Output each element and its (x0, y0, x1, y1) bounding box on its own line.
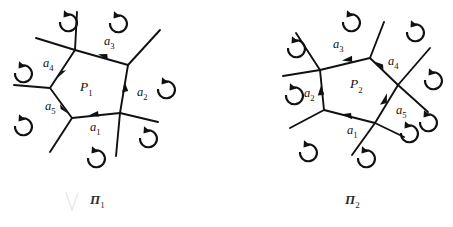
scan-artifact (66, 192, 78, 210)
arrowhead-a5 (380, 93, 387, 105)
caption-pi2: Π2 (344, 192, 360, 210)
rotation-arrow (300, 140, 317, 161)
spur-line (116, 113, 120, 156)
arrowhead-a3 (342, 56, 352, 62)
edge-a3 (75, 50, 128, 65)
arrowhead-a2 (122, 82, 128, 93)
edge-label-a1: a1 (347, 123, 358, 140)
rotation-arrow (60, 10, 77, 31)
panel-left: a1 a2 a3 a4 a5 P1 Π1 (14, 10, 175, 210)
rotation-arrow (140, 126, 157, 147)
spur-line (50, 118, 72, 152)
edge-label-a5: a5 (45, 99, 56, 116)
arrowhead-a2 (318, 85, 324, 96)
rotation-arrow (15, 114, 32, 135)
rotation-arrow (401, 121, 418, 142)
spur-line (120, 113, 158, 122)
rotation-arrow (15, 61, 32, 82)
spur-line (370, 22, 384, 58)
rotation-arrow (286, 83, 303, 104)
rotation-arrow (420, 110, 437, 131)
spur-line (36, 38, 75, 50)
edge-label-a5: a5 (396, 103, 407, 120)
rotation-arrows-left (15, 10, 175, 167)
rotation-arrow (358, 146, 375, 167)
rotation-arrow (88, 146, 105, 167)
figure-root: a1 a2 a3 a4 a5 P1 Π1 (0, 0, 453, 227)
edge-a5 (375, 85, 398, 123)
face-label-p1: P1 (79, 79, 93, 98)
rotation-arrow (343, 10, 360, 31)
edge-label-a3: a3 (104, 34, 115, 51)
face-label-p2: P2 (349, 76, 363, 95)
rotation-arrow (158, 77, 175, 98)
edge-a4 (50, 50, 75, 88)
spur-line (398, 48, 430, 85)
polygon-edges-left (50, 50, 128, 118)
spur-line (283, 70, 320, 76)
spur-line (14, 85, 50, 88)
rotation-arrow (425, 68, 442, 89)
polygon-diagram-svg: a1 a2 a3 a4 a5 P1 Π1 (0, 0, 453, 227)
panel-right: a1 a2 a3 a4 a5 P2 Π2 (283, 10, 442, 209)
edge-label-a4: a4 (388, 54, 399, 71)
edge-label-a3: a3 (333, 37, 344, 54)
rotation-arrow (110, 11, 127, 32)
spur-line (296, 33, 320, 70)
edge-label-a4: a4 (43, 56, 54, 73)
spur-line (128, 30, 160, 65)
edge-label-a2: a2 (304, 86, 315, 103)
spur-line (290, 110, 324, 128)
edge-label-a2: a2 (137, 85, 148, 102)
edge-label-a1: a1 (90, 120, 101, 137)
spur-line (398, 85, 428, 112)
caption-pi1: Π1 (89, 192, 105, 210)
rotation-arrow (407, 20, 424, 41)
spur-line (375, 123, 404, 137)
rotation-arrow (288, 36, 305, 57)
